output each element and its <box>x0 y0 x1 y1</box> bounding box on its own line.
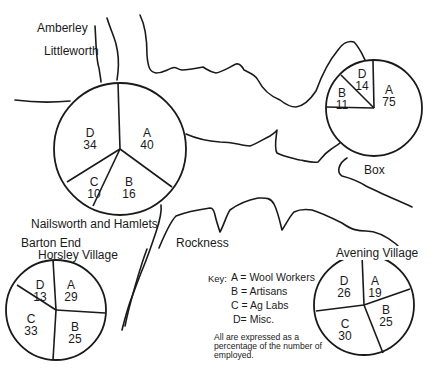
avening-segment-a: A 19 <box>365 275 385 299</box>
segment-value: 33 <box>18 325 44 337</box>
segment-value: 19 <box>365 287 385 299</box>
horsley-segment-c: C 33 <box>18 313 44 337</box>
segment-value: 25 <box>374 316 398 328</box>
segment-value: 16 <box>114 188 144 200</box>
segment-value: 40 <box>122 139 172 151</box>
label-avening: Avening Village <box>335 246 419 260</box>
legend-item-d: D= Misc. <box>233 312 274 327</box>
nailsworth-segment-c: C 10 <box>82 176 106 200</box>
segment-value: 25 <box>62 333 88 345</box>
label-littleworth: Littleworth <box>44 44 99 58</box>
horsley-segment-d: D 13 <box>28 279 52 303</box>
legend-item-c: C = Ag Labs <box>231 298 289 313</box>
segment-value: 30 <box>332 330 358 342</box>
nailsworth-segment-d: D 34 <box>70 127 110 151</box>
segment-value: 13 <box>28 291 52 303</box>
box-segment-d: D 14 <box>352 68 372 92</box>
horsley-segment-b: B 25 <box>62 321 88 345</box>
legend-title: Key: <box>208 271 227 286</box>
label-amberley: Amberley <box>37 21 88 35</box>
pie-horsley <box>6 260 106 360</box>
segment-value: 29 <box>58 291 84 303</box>
nailsworth-segment-b: B 16 <box>114 176 144 200</box>
segment-value: 75 <box>377 96 401 108</box>
nailsworth-segment-a: A 40 <box>122 127 172 151</box>
legend-item-b: B = Artisans <box>231 284 287 299</box>
label-nailsworth: Nailsworth and Hamlets <box>31 217 158 231</box>
legend-note: All are expressed as a percentage of the… <box>214 333 324 360</box>
box-segment-b: B 11 <box>332 87 352 111</box>
label-box: Box <box>364 163 385 177</box>
pie-avening <box>314 255 414 355</box>
label-rockness: Rockness <box>176 236 229 250</box>
segment-value: 26 <box>332 287 356 299</box>
avening-segment-c: C 30 <box>332 318 358 342</box>
segment-value: 10 <box>82 188 106 200</box>
avening-segment-d: D 26 <box>332 275 356 299</box>
avening-segment-b: B 25 <box>374 304 398 328</box>
segment-value: 11 <box>332 99 352 111</box>
horsley-segment-a: A 29 <box>58 279 84 303</box>
segment-value: 34 <box>70 139 110 151</box>
legend-item-a: A = Wool Workers <box>231 270 315 285</box>
segment-value: 14 <box>352 80 372 92</box>
box-segment-a: A 75 <box>377 84 401 108</box>
label-horsley: Horsley Village <box>38 248 118 262</box>
